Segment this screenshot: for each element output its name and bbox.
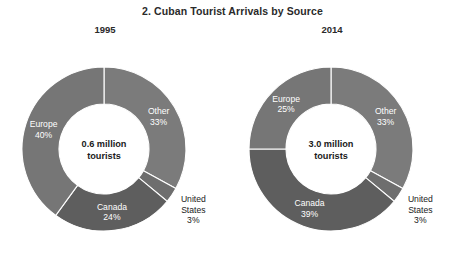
- donut-charts: Other33%UnitedStates3%Canada24%Europe40%…: [0, 0, 465, 255]
- slice-other[interactable]: [331, 67, 413, 189]
- slice-canada[interactable]: [249, 149, 394, 231]
- slice-label-other: Other33%: [375, 106, 397, 127]
- slice-label-other: Other33%: [148, 106, 170, 127]
- figure-root: 2. Cuban Tourist Arrivals by Source 1995…: [0, 0, 465, 255]
- slice-label-united-states: UnitedStates3%: [408, 194, 433, 225]
- slice-other[interactable]: [104, 67, 186, 189]
- center-total-1995: 0.6 milliontourists: [82, 139, 127, 161]
- slice-label-united-states: UnitedStates3%: [181, 194, 206, 225]
- center-total-2014: 3.0 milliontourists: [309, 139, 354, 161]
